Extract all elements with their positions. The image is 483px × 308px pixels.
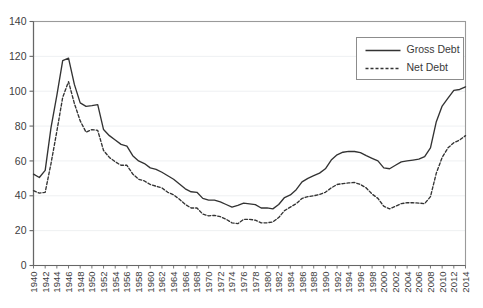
x-axis-tick-label: 1986 [297,272,308,293]
x-axis-tick-label: 1988 [308,272,319,293]
x-axis-tick-label: 1958 [133,272,144,293]
legend-label-net-debt: Net Debt [407,61,449,73]
x-axis-tick-label: 2004 [402,272,413,293]
x-axis-tick-label: 2006 [413,272,424,293]
y-axis-tick-label: 140 [9,15,27,27]
y-axis-tick-label: 40 [15,189,27,201]
x-axis-tick-label: 1980 [262,272,273,293]
x-axis-tick-label: 2014 [460,272,471,293]
y-axis-tick-label: 100 [9,85,27,97]
x-axis-tick-label: 1944 [51,272,62,293]
y-axis: 020406080100120140 [9,15,34,271]
x-axis-tick-label: 2010 [437,272,448,293]
debt-ratio-line-chart: 0204060801001201401940194219441946194819… [0,0,483,308]
legend: Gross DebtNet Debt [357,38,464,80]
x-axis-tick-label: 1996 [355,272,366,293]
x-axis-tick-label: 1994 [343,272,354,293]
x-axis-tick-label: 1950 [86,272,97,293]
x-axis-tick-label: 1948 [75,272,86,293]
y-axis-tick-label: 80 [15,120,27,132]
legend-label-gross-debt: Gross Debt [407,43,460,55]
x-axis-tick-label: 1946 [63,272,74,293]
x-axis-tick-label: 1940 [28,272,39,293]
y-axis-tick-label: 60 [15,155,27,167]
x-axis-tick-label: 1962 [156,272,167,293]
x-axis-tick-label: 1964 [168,272,179,293]
x-axis-tick-label: 2012 [448,272,459,293]
x-axis-tick-label: 1960 [145,272,156,293]
x-axis: 1940194219441946194819501952195419561958… [28,266,471,293]
x-axis-tick-label: 1990 [320,272,331,293]
y-axis-tick-label: 120 [9,50,27,62]
x-axis-tick-label: 1976 [238,272,249,293]
x-axis-tick-label: 1954 [110,272,121,293]
x-axis-tick-label: 1982 [273,272,284,293]
x-axis-tick-label: 1952 [98,272,109,293]
x-axis-tick-label: 1974 [226,272,237,293]
x-axis-tick-label: 1984 [285,272,296,293]
y-axis-tick-label: 20 [15,224,27,236]
x-axis-tick-label: 1978 [250,272,261,293]
x-axis-tick-label: 1956 [121,272,132,293]
y-axis-tick-label: 0 [21,259,27,271]
chart-canvas: 0204060801001201401940194219441946194819… [0,0,483,308]
x-axis-tick-label: 1968 [191,272,202,293]
x-axis-tick-label: 2008 [425,272,436,293]
x-axis-tick-label: 1970 [203,272,214,293]
x-axis-tick-label: 1972 [215,272,226,293]
x-axis-tick-label: 1998 [367,272,378,293]
x-axis-tick-label: 2002 [390,272,401,293]
x-axis-tick-label: 1966 [180,272,191,293]
x-axis-tick-label: 1942 [40,272,51,293]
x-axis-tick-label: 2000 [378,272,389,293]
x-axis-tick-label: 1992 [332,272,343,293]
